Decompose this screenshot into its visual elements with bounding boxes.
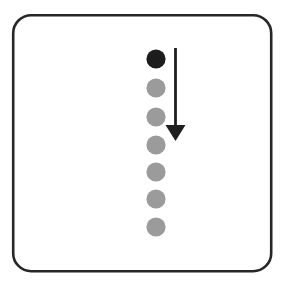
figure-background <box>0 0 284 285</box>
dot-5 <box>146 162 165 181</box>
dot-4 <box>146 135 165 154</box>
dot-3 <box>146 107 165 126</box>
dot-7 <box>146 217 165 236</box>
dot-6 <box>146 189 165 208</box>
figure-illustration <box>0 0 284 285</box>
dot-1 <box>146 49 165 68</box>
dot-2 <box>146 78 165 97</box>
figure-canvas: Downward progression of seven dots with … <box>0 0 284 285</box>
